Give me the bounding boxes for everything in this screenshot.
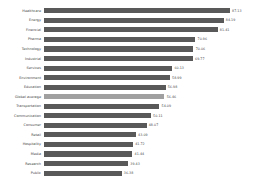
bar-row: Consumer48.07 <box>0 121 266 131</box>
value-label: 50.11 <box>153 114 163 118</box>
value-label: 69.77 <box>195 57 205 61</box>
bar-track: 41.72 <box>44 140 266 150</box>
chart-plot-area: Healthcare87.13Energy84.19Financial81.41… <box>0 6 266 178</box>
bar-track: 60.13 <box>44 63 266 73</box>
category-label: Technology <box>0 47 44 51</box>
bar-row: Environment58.99 <box>0 73 266 83</box>
category-label: Research <box>0 162 44 166</box>
bar-row: Transportation54.09 <box>0 101 266 111</box>
value-label: 39.43 <box>130 162 140 166</box>
bar-track: 58.99 <box>44 73 266 83</box>
value-label: 56.98 <box>168 85 178 89</box>
category-label: Communication <box>0 114 44 118</box>
bar-track: 70.06 <box>44 44 266 54</box>
bar-track: 56.98 <box>44 82 266 92</box>
bar-row: Communication50.11 <box>0 111 266 121</box>
bar-track: 43.09 <box>44 130 266 140</box>
bar <box>44 142 133 147</box>
value-label: 58.99 <box>172 76 182 80</box>
bar-track: 84.19 <box>44 16 266 26</box>
bar-track: 69.77 <box>44 54 266 64</box>
bar-row: Media41.44 <box>0 149 266 159</box>
bar-track: 50.11 <box>44 111 266 121</box>
value-label: 70.06 <box>196 47 206 51</box>
value-label: 54.09 <box>162 104 172 108</box>
bar-chart: Healthcare87.13Energy84.19Financial81.41… <box>0 0 266 181</box>
bar <box>44 132 136 137</box>
category-label: Retail <box>0 133 44 137</box>
bar-track: 39.43 <box>44 159 266 169</box>
category-label: Industrial <box>0 57 44 61</box>
bar-row: Services60.13 <box>0 63 266 73</box>
bar <box>44 66 172 71</box>
bar-row: Pharma70.96 <box>0 35 266 45</box>
bar-track: 54.09 <box>44 101 266 111</box>
bar-row: Energy84.19 <box>0 16 266 26</box>
bar <box>44 27 218 32</box>
bar-row: Financial81.41 <box>0 25 266 35</box>
category-label: Energy <box>0 18 44 22</box>
value-label: 41.44 <box>135 152 145 156</box>
bar <box>44 123 147 128</box>
category-label: Transportation <box>0 104 44 108</box>
bar-track: 48.07 <box>44 121 266 131</box>
value-label: 36.38 <box>124 171 134 175</box>
bar <box>44 18 224 23</box>
category-label: Public <box>0 171 44 175</box>
bar <box>44 75 170 80</box>
bar <box>44 56 193 61</box>
bar-track: 87.13 <box>44 6 266 16</box>
bar-row: Research39.43 <box>0 159 266 169</box>
category-label: Environment <box>0 76 44 80</box>
bar <box>44 113 151 118</box>
bar-row: Retail43.09 <box>0 130 266 140</box>
bar-row: Technology70.06 <box>0 44 266 54</box>
category-label: Hospitality <box>0 142 44 146</box>
category-label: Services <box>0 66 44 70</box>
bar <box>44 8 230 13</box>
value-label: 70.96 <box>198 37 208 41</box>
bar <box>44 85 166 90</box>
value-label: 81.41 <box>220 28 230 32</box>
bar-track: 70.96 <box>44 35 266 45</box>
bar-row: Global average56.46 <box>0 92 266 102</box>
bar-row: Public36.38 <box>0 168 266 178</box>
value-label: 41.72 <box>135 142 145 146</box>
value-label: 60.13 <box>174 66 184 70</box>
category-label: Pharma <box>0 37 44 41</box>
value-label: 43.09 <box>138 133 148 137</box>
bar-track: 81.41 <box>44 25 266 35</box>
value-label: 48.07 <box>149 123 159 127</box>
value-label: 56.46 <box>167 95 177 99</box>
bar <box>44 104 159 109</box>
bar-track: 36.38 <box>44 168 266 178</box>
value-label: 84.19 <box>226 18 236 22</box>
bar <box>44 151 132 156</box>
bar-row: Healthcare87.13 <box>0 6 266 16</box>
value-label: 87.13 <box>232 9 242 13</box>
bar-row: Education56.98 <box>0 82 266 92</box>
bar <box>44 46 193 51</box>
category-label: Global average <box>0 95 44 99</box>
bar-track: 41.44 <box>44 149 266 159</box>
bar <box>44 161 128 166</box>
bar <box>44 37 195 42</box>
category-label: Healthcare <box>0 9 44 13</box>
category-label: Consumer <box>0 123 44 127</box>
bar <box>44 94 164 99</box>
bar-row: Hospitality41.72 <box>0 140 266 150</box>
category-label: Education <box>0 85 44 89</box>
bar-row: Industrial69.77 <box>0 54 266 64</box>
category-label: Financial <box>0 28 44 32</box>
category-label: Media <box>0 152 44 156</box>
bar <box>44 171 122 176</box>
bar-track: 56.46 <box>44 92 266 102</box>
